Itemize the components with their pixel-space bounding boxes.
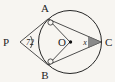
segment-P-to-A (20, 19, 48, 42)
angle-marker-at-B (48, 59, 53, 64)
label-point-A: A (41, 2, 49, 14)
label-point-B: B (41, 69, 48, 81)
label-angle-at-P: 72 (26, 38, 34, 47)
angle-wedge-at-C (89, 37, 102, 48)
label-point-O: O (58, 36, 66, 48)
label-angle-at-C: x (82, 38, 87, 47)
center-dot-O (69, 40, 72, 43)
label-point-P: P (3, 36, 9, 48)
segment-P-to-B (20, 42, 48, 65)
angle-marker-at-A (48, 20, 53, 25)
geometry-figure: A B C O P 72 x (0, 0, 115, 82)
geometry-canvas: A B C O P 72 x (0, 0, 115, 82)
label-point-C: C (105, 36, 112, 48)
